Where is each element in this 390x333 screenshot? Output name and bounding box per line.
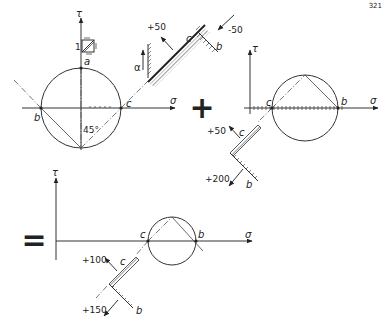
- stress-element-3: c b +100 +150: [82, 255, 142, 316]
- face-c-label: c: [239, 127, 245, 138]
- sigma-label: σ: [370, 95, 377, 106]
- stress-b-label: -50: [228, 25, 243, 35]
- stress-element-1: α c b +50 -50: [134, 15, 243, 87]
- stress-c-label: +50: [207, 126, 226, 136]
- diagram-3: σ τ c b c b +100 +150: [52, 167, 252, 316]
- point-c: [119, 106, 122, 109]
- point-b: [39, 106, 42, 109]
- point-b-label: b: [341, 96, 347, 107]
- stress-b-label: +200: [205, 174, 230, 184]
- point-b: [336, 106, 339, 109]
- tau-label: τ: [76, 8, 83, 19]
- angle-label: 45°: [83, 125, 99, 135]
- point-b-label: b: [198, 229, 204, 240]
- point-c-label: c: [266, 97, 272, 108]
- point-c-label: c: [140, 229, 146, 240]
- stress-arrow-c: [161, 37, 173, 50]
- alpha-label: α: [134, 62, 141, 73]
- c-extension: [136, 241, 148, 255]
- stress-c-label: +100: [82, 255, 107, 265]
- point-b-label: b: [34, 112, 40, 123]
- sigma-label: σ: [245, 229, 252, 240]
- b-extension: [14, 80, 41, 108]
- point-a-label: a: [84, 56, 90, 67]
- sigma-label: σ: [170, 95, 177, 106]
- unit-label: 1: [75, 42, 81, 52]
- face-b-label: b: [216, 41, 222, 52]
- page-number: 321: [369, 2, 382, 10]
- point-c-label: c: [126, 98, 132, 109]
- stress-c-label: +50: [147, 22, 166, 32]
- tau-label: τ: [52, 167, 59, 178]
- face-c-hatch: [150, 29, 210, 87]
- face-c-label: c: [120, 256, 126, 267]
- equals-sign: =: [21, 222, 46, 257]
- point-c: [146, 239, 149, 242]
- plus-sign: +: [189, 90, 214, 125]
- stress-arrow-b: [229, 169, 243, 186]
- face-b-label: b: [136, 305, 142, 316]
- face-c-label: c: [186, 33, 192, 44]
- c-extension: [258, 108, 272, 122]
- face-b-label: b: [246, 179, 252, 190]
- mohr-circle-superposition-figure: 321 σ τ b c a 45°: [0, 0, 390, 333]
- line-bottom-to-b: [41, 108, 81, 148]
- face-c: [148, 25, 205, 82]
- stress-b-label: +150: [82, 305, 107, 315]
- tau-label: τ: [252, 43, 259, 54]
- stress-element-2: c b +50 +200: [205, 125, 261, 190]
- stress-arrow-c: [105, 258, 117, 271]
- unit-square-icon: [82, 38, 96, 54]
- point-a: [79, 66, 82, 69]
- face-c: [230, 125, 261, 156]
- diagram-2: σ τ c b: [205, 43, 378, 190]
